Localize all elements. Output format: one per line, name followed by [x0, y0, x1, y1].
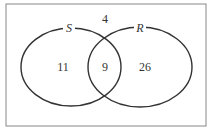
intersection-count: 9: [102, 60, 108, 74]
set-r-label: R: [135, 21, 144, 35]
s-only-count: 11: [57, 60, 69, 74]
outside-count: 4: [102, 12, 108, 26]
r-only-count: 26: [139, 60, 151, 74]
venn-diagram: S R 4 11 9 26: [0, 0, 209, 129]
set-s-label: S: [66, 21, 72, 35]
